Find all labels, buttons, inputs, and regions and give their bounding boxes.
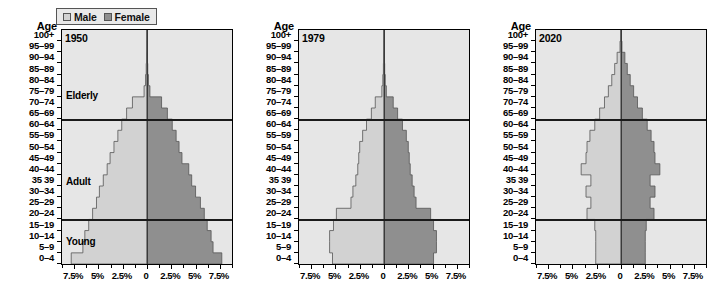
age-tick-label: 10–14 (474, 231, 528, 240)
x-tick-mark (311, 265, 312, 269)
legend-item-male: Male (63, 11, 97, 23)
x-tick-mark-minor (536, 265, 537, 268)
age-tick-label: 0–4 (237, 253, 291, 262)
x-tick-mark (572, 265, 573, 269)
age-tick-label: 15–19 (0, 220, 54, 229)
age-tick-label: 20–24 (474, 208, 528, 217)
age-tick-label: 60–64 (237, 119, 291, 128)
zero-axis-line (384, 30, 385, 264)
age-tick-label: 75–79 (237, 86, 291, 95)
divider-adult-young (536, 219, 706, 220)
x-tick-label: 5% (662, 270, 675, 281)
x-tick-mark (384, 265, 385, 269)
pyramid-panel-1950: Age 100+95–9990–9485–8980–8475–7970–7465… (0, 0, 237, 295)
age-tick-label: 100+ (474, 30, 528, 39)
x-tick-label: 0 (618, 270, 623, 281)
x-axis-labels: 7.5%5%2.5%02.5%5%7.5% (40, 270, 254, 284)
age-tick-label: 0–4 (0, 253, 54, 262)
age-tick-label: 0–4 (474, 253, 528, 262)
x-axis-labels: 7.5%5%2.5%02.5%5%7.5% (514, 270, 711, 284)
x-tick-mark-minor (396, 265, 397, 268)
x-tick-mark-minor (208, 265, 209, 268)
legend-label-male: Male (74, 11, 97, 23)
divider-adult-young (62, 219, 232, 220)
age-tick-label: 80–84 (0, 75, 54, 84)
male-area (71, 30, 147, 264)
x-tick-mark-minor (420, 265, 421, 268)
x-tick-label: 7.5% (209, 270, 229, 281)
x-tick-mark-minor (469, 265, 470, 268)
age-tick-label: 95–99 (237, 41, 291, 50)
age-tick-label: 70–74 (237, 97, 291, 106)
segment-label-adult: Adult (66, 176, 91, 187)
x-tick-mark (196, 265, 197, 269)
age-tick-label: 45–49 (0, 153, 54, 162)
age-tick-labels: 100+95–9990–9485–8980–8475–7970–7465–696… (474, 29, 531, 265)
age-tick-label: 85–89 (237, 64, 291, 73)
pyramid-panel-1979: Age 100+95–9990–9485–8980–8475–7970–7465… (237, 0, 474, 295)
x-tick-mark (147, 265, 148, 269)
age-tick-label: 100+ (237, 30, 291, 39)
age-tick-label: 90–94 (237, 52, 291, 61)
age-tick-label: 40–44 (0, 164, 54, 173)
age-tick-label: 55–59 (474, 130, 528, 139)
age-tick-label: 50–54 (474, 142, 528, 151)
x-tick-label: 5% (328, 270, 341, 281)
x-tick-mark-minor (609, 265, 610, 268)
x-tick-mark-minor (372, 265, 373, 268)
age-tick-labels: 100+95–9990–9485–8980–8475–7970–7465–696… (0, 29, 57, 265)
plot-area: 1950 Elderly Adult Young (61, 29, 233, 265)
x-tick-label: 5% (91, 270, 104, 281)
age-tick-label: 25–29 (237, 197, 291, 206)
age-tick-label: 85–89 (0, 64, 54, 73)
x-tick-mark-minor (159, 265, 160, 268)
x-tick-mark-minor (232, 265, 233, 268)
x-tick-mark (548, 265, 549, 269)
x-tick-mark-minor (706, 265, 707, 268)
age-tick-label: 15–19 (237, 220, 291, 229)
x-tick-label: 7.5% (300, 270, 320, 281)
x-tick-mark-minor (299, 265, 300, 268)
age-tick-label: 95–99 (0, 41, 54, 50)
female-color-swatch (104, 13, 112, 21)
age-tick-label: 100+ (0, 30, 54, 39)
x-tick-mark (433, 265, 434, 269)
age-tick-label: 70–74 (474, 97, 528, 106)
x-tick-mark (360, 265, 361, 269)
age-tick-label: 35 39 (474, 175, 528, 184)
age-tick-label: 55–59 (0, 130, 54, 139)
age-tick-label: 95–99 (474, 41, 528, 50)
panel-year-label: 1979 (302, 32, 325, 44)
x-tick-mark (457, 265, 458, 269)
age-tick-labels: 100+95–9990–9485–8980–8475–7970–7465–696… (237, 29, 294, 265)
age-tick-label: 30–34 (0, 186, 54, 195)
age-tick-label: 65–69 (474, 108, 528, 117)
x-tick-label: 7.5% (537, 270, 557, 281)
plot-area: 1979 (298, 29, 470, 265)
age-tick-label: 40–44 (474, 164, 528, 173)
age-tick-label: 25–29 (474, 197, 528, 206)
age-tick-label: 5–9 (474, 242, 528, 251)
panel-year-label: 1950 (65, 32, 88, 44)
x-tick-mark-minor (682, 265, 683, 268)
age-tick-label: 10–14 (0, 231, 54, 240)
x-tick-label: 2.5% (634, 270, 654, 281)
chart-legend: Male Female (56, 8, 157, 25)
x-tick-label: 7.5% (683, 270, 703, 281)
male-area (330, 30, 384, 264)
age-tick-label: 90–94 (0, 52, 54, 61)
x-tick-mark-minor (348, 265, 349, 268)
x-tick-mark-minor (111, 265, 112, 268)
age-tick-label: 70–74 (0, 97, 54, 106)
x-tick-mark-minor (135, 265, 136, 268)
x-tick-label: 5% (565, 270, 578, 281)
age-tick-label: 15–19 (474, 220, 528, 229)
age-tick-label: 75–79 (474, 86, 528, 95)
age-tick-label: 40–44 (237, 164, 291, 173)
x-tick-mark (694, 265, 695, 269)
age-tick-label: 65–69 (237, 108, 291, 117)
x-tick-mark (670, 265, 671, 269)
age-tick-label: 45–49 (237, 153, 291, 162)
segment-label-young: Young (66, 236, 95, 247)
age-tick-label: 55–59 (237, 130, 291, 139)
